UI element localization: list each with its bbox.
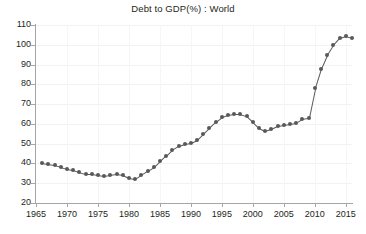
- x-gridline: [284, 25, 285, 203]
- y-axis-tick: [31, 45, 36, 46]
- x-axis-tick: [191, 203, 192, 207]
- y-axis-tick-label: 70: [1, 98, 31, 108]
- data-point: [183, 142, 187, 146]
- x-gridline: [67, 25, 68, 203]
- x-axis-tick: [98, 203, 99, 207]
- y-axis-tick-label: 20: [1, 197, 31, 207]
- y-axis-tick-label: 40: [1, 157, 31, 167]
- y-gridline: [36, 84, 352, 85]
- y-axis-tick-label: 100: [1, 39, 31, 49]
- chart-container: Debt to GDP(%) : World 20304050607080901…: [0, 0, 366, 234]
- x-gridline: [222, 25, 223, 203]
- y-gridline: [36, 45, 352, 46]
- y-axis-tick-label: 30: [1, 177, 31, 187]
- y-gridline: [36, 183, 352, 184]
- x-gridline: [315, 25, 316, 203]
- data-point: [53, 163, 57, 167]
- data-point: [245, 114, 249, 118]
- data-point: [350, 36, 354, 40]
- x-gridline: [253, 25, 254, 203]
- data-point: [65, 167, 69, 171]
- data-point: [139, 173, 143, 177]
- data-point: [207, 126, 211, 130]
- data-point: [46, 162, 50, 166]
- data-point: [313, 86, 317, 90]
- chart-title: Debt to GDP(%) : World: [0, 3, 366, 14]
- data-point: [102, 174, 106, 178]
- y-gridline: [36, 163, 352, 164]
- y-gridline: [36, 104, 352, 105]
- data-point: [177, 144, 181, 148]
- data-point: [170, 148, 174, 152]
- x-axis-tick: [315, 203, 316, 207]
- y-axis-tick: [31, 25, 36, 26]
- x-axis-tick-label: 2015: [326, 209, 366, 219]
- x-axis-tick: [222, 203, 223, 207]
- x-gridline: [160, 25, 161, 203]
- y-axis-tick: [31, 183, 36, 184]
- data-point: [40, 161, 44, 165]
- data-point: [307, 116, 311, 120]
- x-axis-tick: [67, 203, 68, 207]
- y-gridline: [36, 25, 352, 26]
- data-point: [232, 112, 236, 116]
- data-point: [195, 138, 199, 142]
- y-axis-tick-label: 60: [1, 118, 31, 128]
- data-point: [214, 120, 218, 124]
- x-axis-tick: [160, 203, 161, 207]
- data-point: [115, 172, 119, 176]
- y-axis-tick: [31, 124, 36, 125]
- x-gridline: [346, 25, 347, 203]
- data-point: [300, 117, 304, 121]
- data-point: [108, 173, 112, 177]
- x-axis-tick: [36, 203, 37, 207]
- y-axis-tick: [31, 84, 36, 85]
- data-point: [269, 127, 273, 131]
- x-gridline: [191, 25, 192, 203]
- x-axis-tick: [346, 203, 347, 207]
- data-point: [226, 113, 230, 117]
- y-axis-tick: [31, 163, 36, 164]
- y-gridline: [36, 124, 352, 125]
- data-point: [59, 165, 63, 169]
- data-point: [282, 123, 286, 127]
- data-point: [201, 132, 205, 136]
- x-axis-tick: [284, 203, 285, 207]
- data-point: [331, 43, 335, 47]
- data-point: [263, 129, 267, 133]
- data-point: [251, 120, 255, 124]
- y-gridline: [36, 65, 352, 66]
- data-point: [257, 126, 261, 130]
- x-axis-tick: [129, 203, 130, 207]
- data-point: [90, 172, 94, 176]
- data-point: [325, 53, 329, 57]
- y-axis-tick-label: 110: [1, 19, 31, 29]
- data-point: [338, 36, 342, 40]
- y-axis-tick: [31, 104, 36, 105]
- data-point: [152, 165, 156, 169]
- y-axis-tick: [31, 65, 36, 66]
- y-axis-tick-label: 80: [1, 78, 31, 88]
- data-point: [344, 34, 348, 38]
- x-axis-line: [35, 203, 353, 204]
- data-point: [220, 115, 224, 119]
- data-point: [189, 141, 193, 145]
- y-gridline: [36, 144, 352, 145]
- plot-area: [36, 25, 352, 203]
- data-point: [133, 177, 137, 181]
- data-point: [288, 122, 292, 126]
- data-point: [146, 169, 150, 173]
- data-point: [164, 154, 168, 158]
- y-axis-tick-label: 50: [1, 138, 31, 148]
- data-point: [127, 176, 131, 180]
- data-point: [276, 124, 280, 128]
- y-axis-tick-label: 90: [1, 59, 31, 69]
- x-axis-tick: [253, 203, 254, 207]
- data-point: [84, 172, 88, 176]
- y-axis-labels: 2030405060708090100110: [0, 0, 31, 234]
- data-point: [96, 173, 100, 177]
- y-axis-tick: [31, 144, 36, 145]
- data-point: [319, 67, 323, 71]
